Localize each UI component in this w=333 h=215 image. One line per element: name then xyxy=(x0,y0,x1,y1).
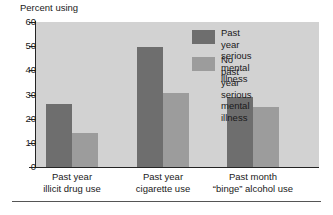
bar xyxy=(163,93,189,167)
y-axis-tick-label: 30 xyxy=(10,90,36,100)
footer-divider xyxy=(12,201,321,202)
y-axis-title: Percent using xyxy=(20,2,78,13)
x-axis-label-line: “binge” alcohol use xyxy=(193,183,313,195)
bar-group xyxy=(137,22,193,167)
y-axis-tick-label: 40 xyxy=(10,65,36,75)
legend-label-line: mental illness xyxy=(221,100,252,123)
bars-layer xyxy=(36,22,319,167)
bar-group xyxy=(46,22,102,167)
legend-color-swatch xyxy=(192,30,215,44)
y-axis-tick-label: 50 xyxy=(10,41,36,51)
bar xyxy=(72,133,98,167)
y-axis-tick-label: 60 xyxy=(10,17,36,27)
x-axis-label-line: Past month xyxy=(193,171,313,183)
bar xyxy=(46,104,72,167)
bar-chart-figure: Percent using 0102030405060 Past yearill… xyxy=(0,0,333,215)
x-axis-group-label: Past month“binge” alcohol use xyxy=(193,171,313,194)
legend-label: No past year seriousmental illness xyxy=(221,54,252,123)
legend-label-line: No past year serious xyxy=(221,54,252,100)
bar xyxy=(137,47,163,167)
bar xyxy=(253,107,279,167)
legend-color-swatch xyxy=(192,57,215,71)
y-axis-tick-label: 20 xyxy=(10,114,36,124)
x-axis-line xyxy=(35,167,319,168)
y-axis-tick-label: 10 xyxy=(10,138,36,148)
